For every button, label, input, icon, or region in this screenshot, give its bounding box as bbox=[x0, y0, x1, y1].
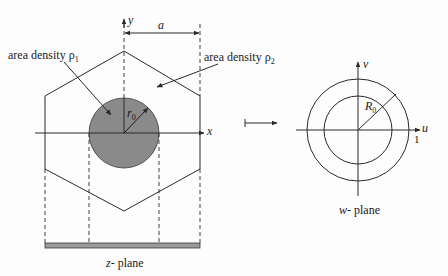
radius-label-r0: r0 bbox=[127, 107, 136, 121]
region1-label-sub: 1 bbox=[75, 55, 79, 64]
radius-line-R0 bbox=[358, 94, 396, 130]
region1-label-text: area density ρ bbox=[8, 48, 75, 62]
z-plane-caption-text: - plane bbox=[111, 256, 144, 270]
w-plane-figure bbox=[296, 62, 420, 196]
region2-label-text: area density ρ bbox=[204, 50, 271, 64]
conformal-mapping-figure bbox=[0, 0, 448, 276]
w-plane-caption: w- plane bbox=[339, 204, 380, 216]
unit-tick-label: 1 bbox=[414, 133, 420, 145]
radius-label-r0-main: r bbox=[127, 106, 132, 120]
radius-label-r0-sub: 0 bbox=[132, 113, 136, 122]
z-plane-bar bbox=[45, 243, 200, 248]
region2-label-sub: 2 bbox=[271, 57, 275, 66]
diagram-canvas: y a area density ρ1 area density ρ2 r0 x… bbox=[0, 0, 448, 276]
u-axis-label: u bbox=[422, 122, 428, 134]
maps-to-arrow bbox=[245, 119, 277, 127]
v-axis-label: v bbox=[363, 58, 368, 70]
y-axis-label: y bbox=[128, 14, 133, 26]
dimension-label-a: a bbox=[158, 19, 164, 31]
x-axis-label: x bbox=[207, 125, 212, 137]
region1-label: area density ρ1 bbox=[8, 49, 79, 63]
leader-arrow-rho1 bbox=[64, 62, 111, 115]
radius-label-R0: R0 bbox=[365, 100, 376, 114]
w-plane-caption-var: w bbox=[339, 203, 347, 217]
z-plane-caption: z- plane bbox=[106, 257, 144, 269]
w-plane-caption-text: - plane bbox=[347, 203, 380, 217]
radius-label-R0-sub: 0 bbox=[372, 106, 376, 115]
region2-label: area density ρ2 bbox=[204, 51, 275, 65]
